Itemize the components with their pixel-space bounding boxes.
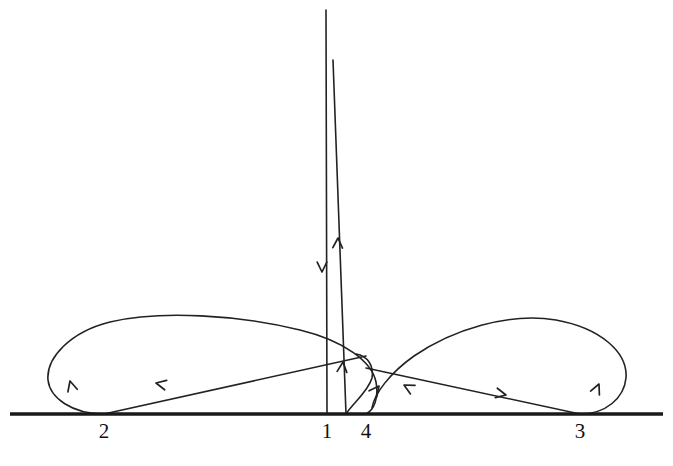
point-label-4: 4 — [351, 421, 381, 442]
segment-right-diagonal — [366, 368, 580, 414]
point-label-3: 3 — [565, 421, 595, 442]
point-label-2: 2 — [89, 421, 119, 442]
trajectory-figure: 2 1 4 3 — [0, 0, 673, 466]
arrow-spike-up — [333, 238, 343, 248]
arrow-left-loop-up — [68, 381, 77, 392]
segment-spike-right-edge — [333, 60, 346, 414]
arrow-left-diagonal-down — [156, 380, 167, 389]
trajectory-canvas — [0, 0, 673, 466]
segment-inner-small-loop — [346, 354, 372, 414]
point-label-1: 1 — [312, 421, 342, 442]
arrow-point4-up-right — [369, 386, 379, 397]
segment-spike-left-edge — [326, 10, 327, 414]
arrow-right-loop-up — [591, 384, 600, 395]
segment-right-loop — [372, 318, 626, 414]
arrow-inner-loop-up — [337, 362, 347, 372]
trajectory-segments — [48, 10, 626, 414]
arrow-point4-down-left — [404, 385, 415, 394]
arrow-spike-down — [317, 262, 327, 272]
